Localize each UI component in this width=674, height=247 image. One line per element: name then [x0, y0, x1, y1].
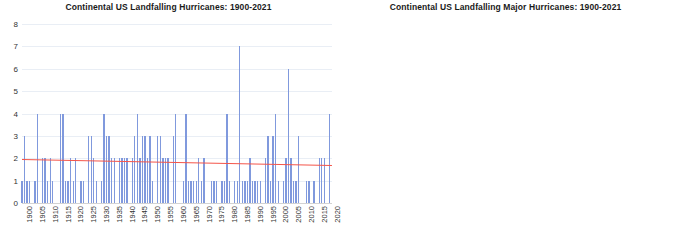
plot-area-hurricanes: 0123456781900190519101915192019251930193…: [0, 0, 337, 247]
bar: [185, 114, 186, 204]
bar: [295, 181, 296, 203]
bar: [224, 181, 225, 203]
x-axis-line: [22, 203, 332, 204]
x-axis-tick-label: 1965: [192, 206, 201, 223]
bar: [193, 181, 194, 203]
y-gridline: [22, 46, 332, 47]
bar: [103, 114, 104, 204]
bar: [298, 136, 299, 203]
bar: [244, 181, 245, 203]
chart-panel-major-hurricanes: Continental US Landfalling Major Hurrica…: [337, 0, 674, 247]
figure-container: Continental US Landfalling Hurricanes: 1…: [0, 0, 674, 247]
bar: [106, 136, 107, 203]
bar: [229, 181, 230, 203]
bar: [144, 136, 145, 203]
bar: [213, 181, 214, 203]
x-axis-tick-label: 2015: [320, 206, 329, 223]
bar: [114, 158, 115, 203]
bar: [111, 158, 112, 203]
x-axis-tick-label: 2005: [294, 206, 303, 223]
x-axis-tick-label: 1940: [128, 206, 137, 223]
bar: [267, 136, 268, 203]
x-axis-tick-label: 1930: [102, 206, 111, 223]
bar: [160, 136, 161, 203]
bar: [80, 181, 81, 203]
bar: [173, 136, 174, 203]
x-axis-tick-label: 1985: [243, 206, 252, 223]
bar: [306, 181, 307, 203]
bar: [308, 181, 309, 203]
y-axis-tick-label: 0: [6, 199, 18, 208]
bar: [183, 181, 184, 203]
bar: [190, 181, 191, 203]
bar: [29, 181, 30, 203]
bar: [37, 114, 38, 204]
bar: [101, 181, 102, 203]
bar: [24, 136, 25, 203]
y-axis-tick-label: 2: [6, 154, 18, 163]
bar: [67, 181, 68, 203]
bar: [93, 158, 94, 203]
bar: [88, 136, 89, 203]
bar: [26, 181, 27, 203]
bar: [278, 181, 279, 203]
bar: [260, 181, 261, 203]
bar: [21, 181, 22, 203]
bar: [147, 158, 148, 203]
x-axis-tick-label: 1915: [64, 206, 73, 223]
bar: [119, 158, 120, 203]
bar: [34, 181, 35, 203]
bar: [157, 136, 158, 203]
bar: [124, 158, 125, 203]
bar: [139, 158, 140, 203]
bar: [201, 181, 202, 203]
bar: [270, 181, 271, 203]
bar: [65, 181, 66, 203]
bar: [137, 114, 138, 204]
x-axis-tick-label: 1945: [140, 206, 149, 223]
x-axis-tick-label: 1935: [115, 206, 124, 223]
y-gridline: [22, 91, 332, 92]
x-axis-tick-label: 1925: [89, 206, 98, 223]
chart-panel-hurricanes: Continental US Landfalling Hurricanes: 1…: [0, 0, 337, 247]
bar: [203, 158, 204, 203]
y-gridline: [22, 69, 332, 70]
x-axis-tick-label: 1980: [230, 206, 239, 223]
bar: [313, 181, 314, 203]
y-axis-tick-label: 5: [6, 87, 18, 96]
x-axis-tick-label: 1900: [25, 206, 34, 223]
bar: [91, 136, 92, 203]
y-axis-tick-label: 7: [6, 42, 18, 51]
x-axis-tick-label: 1950: [153, 206, 162, 223]
bar: [252, 181, 253, 203]
bar: [272, 136, 273, 203]
bar: [221, 181, 222, 203]
bar: [293, 181, 294, 203]
bar: [70, 158, 71, 203]
bar: [165, 158, 166, 203]
bar: [242, 181, 243, 203]
bar: [162, 158, 163, 203]
x-axis-tick-label: 2000: [281, 206, 290, 223]
y-axis-tick-label: 8: [6, 20, 18, 29]
bar: [134, 136, 135, 203]
x-axis-tick-label: 1960: [179, 206, 188, 223]
x-axis-tick-label: 2010: [307, 206, 316, 223]
bar: [149, 136, 150, 203]
y-axis-tick-label: 1: [6, 176, 18, 185]
bar: [52, 181, 53, 203]
x-axis-tick-label: 1910: [51, 206, 60, 223]
bar: [237, 181, 238, 203]
plot-area-major-hurricanes: 0123419001905191019151920192519301935194…: [337, 0, 674, 247]
bar: [239, 46, 240, 203]
bar: [126, 158, 127, 203]
bar: [234, 181, 235, 203]
bar: [83, 181, 84, 203]
y-axis-tick-label: 4: [6, 109, 18, 118]
x-axis-tick-label: 1955: [166, 206, 175, 223]
y-gridline: [22, 136, 332, 137]
bar: [247, 181, 248, 203]
bar: [254, 181, 255, 203]
bar: [152, 181, 153, 203]
bar: [249, 158, 250, 203]
